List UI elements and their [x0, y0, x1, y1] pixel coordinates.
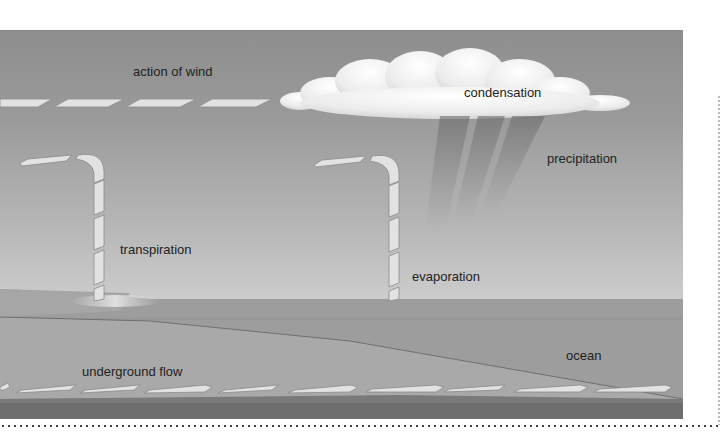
label-condensation: condensation: [464, 85, 541, 100]
label-action-of-wind: action of wind: [133, 64, 213, 79]
wind-arrows: [0, 99, 272, 107]
label-transpiration: transpiration: [120, 242, 192, 257]
precipitation-rain: [425, 116, 545, 231]
label-precipitation: precipitation: [547, 151, 617, 166]
evaporation-arrow: [314, 155, 399, 301]
water-cycle-diagram: action of wind condensation precipitatio…: [0, 30, 683, 419]
transpiration-arrow: [20, 154, 104, 301]
dotted-divider-horizontal: [0, 424, 722, 428]
cloud: [280, 48, 630, 119]
dotted-divider-vertical: [717, 95, 721, 425]
label-evaporation: evaporation: [412, 269, 480, 284]
label-ocean: ocean: [566, 348, 601, 363]
label-underground-flow: underground flow: [82, 364, 182, 379]
